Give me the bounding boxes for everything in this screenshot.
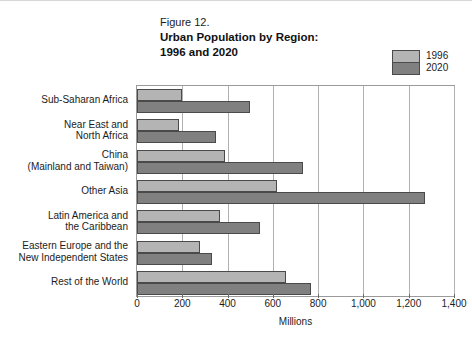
x-tick-label-600: 600	[265, 298, 282, 309]
category-label: Eastern Europe and the New Independent S…	[18, 240, 128, 263]
category-axis-labels: Sub-Saharan AfricaNear East and North Af…	[0, 85, 132, 297]
bar-rows	[137, 86, 454, 296]
x-tick-label-1000: 1,000	[351, 298, 376, 309]
bar-2020	[137, 283, 311, 295]
category-label: China (Mainland and Taiwan)	[28, 149, 128, 172]
figure-title-block: Figure 12. Urban Population by Region: 1…	[160, 15, 318, 60]
bar-2020	[137, 131, 216, 143]
category-label: Other Asia	[81, 185, 128, 197]
bar-1996	[137, 210, 220, 222]
figure-title-line-1: Urban Population by Region:	[160, 30, 318, 45]
category-label: Latin America and the Caribbean	[48, 210, 128, 233]
bar-group	[137, 180, 454, 204]
x-axis-ticks: 02004006008001,0001,2001,400	[136, 298, 455, 312]
bar-group	[137, 210, 454, 234]
category-label: Near East and North Africa	[64, 119, 128, 142]
x-tick-label-1200: 1,200	[396, 298, 421, 309]
figure-container: Figure 12. Urban Population by Region: 1…	[0, 0, 472, 341]
figure-number: Figure 12.	[160, 15, 318, 30]
bar-group	[137, 150, 454, 174]
bar-1996	[137, 271, 286, 283]
x-axis-label: Millions	[136, 316, 455, 327]
category-label: Rest of the World	[51, 276, 128, 288]
x-tick-label-1400: 1,400	[441, 298, 466, 309]
chart-legend: 1996 2020	[392, 50, 448, 75]
legend-swatch-2020	[393, 62, 419, 74]
bar-1996	[137, 119, 179, 131]
bar-1996	[137, 89, 182, 101]
plot-area	[136, 85, 455, 297]
legend-label-1996: 1996	[426, 50, 448, 62]
bar-2020	[137, 192, 425, 204]
plot-frame	[136, 85, 455, 297]
bar-2020	[137, 162, 303, 174]
figure-title-line-2: 1996 and 2020	[160, 45, 318, 60]
bar-1996	[137, 241, 200, 253]
bar-group	[137, 119, 454, 143]
bar-group	[137, 241, 454, 265]
bar-2020	[137, 101, 250, 113]
category-label: Sub-Saharan Africa	[41, 94, 128, 106]
legend-swatch-1996	[393, 51, 419, 62]
bar-1996	[137, 180, 277, 192]
bar-group	[137, 271, 454, 295]
bar-2020	[137, 253, 212, 265]
gridline-1400	[454, 86, 455, 296]
legend-label-2020: 2020	[426, 62, 448, 74]
x-tick-label-200: 200	[174, 298, 191, 309]
x-tick-label-800: 800	[310, 298, 327, 309]
bar-group	[137, 89, 454, 113]
legend-swatch-group	[392, 50, 420, 75]
bar-1996	[137, 150, 225, 162]
x-tick-label-400: 400	[219, 298, 236, 309]
bar-2020	[137, 222, 260, 234]
x-tick-label-0: 0	[134, 298, 140, 309]
legend-label-group: 1996 2020	[426, 50, 448, 73]
